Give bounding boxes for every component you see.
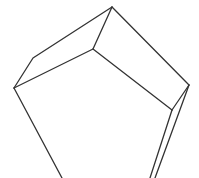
canvas-background [0,0,199,178]
drawing-canvas [0,0,199,178]
open-box-figure [0,0,199,178]
